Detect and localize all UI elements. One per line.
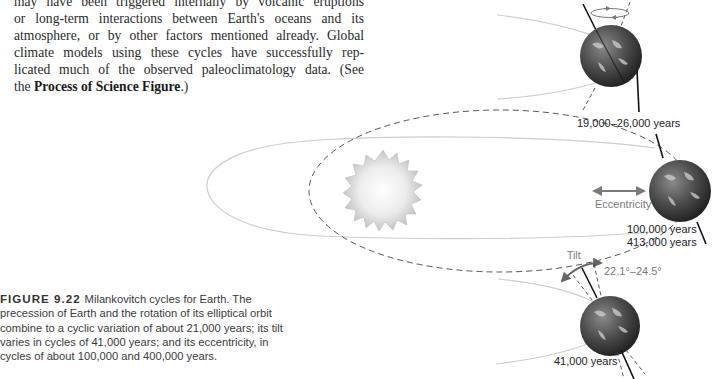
elongated-orbit — [207, 137, 655, 239]
tilt-period-label: 41,000 years — [554, 355, 618, 367]
eccentricity-label: Eccentricity — [595, 198, 652, 210]
tilt-arc-arrow — [562, 263, 601, 281]
figure-number: FIGURE 9.22 — [0, 292, 81, 305]
precession-orbit — [497, 80, 605, 99]
sun-icon — [343, 150, 422, 231]
tilt-title-label: Tilt — [567, 249, 581, 261]
eccentricity-period-2: 413,000 years — [627, 236, 697, 248]
tilt-orbit — [498, 279, 594, 302]
figure-caption: FIGURE 9.22Milankovitch cycles for Earth… — [0, 292, 300, 363]
eccentricity-period-1: 100,000 years — [627, 223, 697, 235]
precession-rotation-icon — [591, 9, 629, 18]
precession-period-label: 19,000–26,000 years — [577, 117, 681, 129]
tilt-range-label: 22.1°–24.5° — [604, 265, 662, 277]
earth-precession-icon — [580, 2, 642, 112]
